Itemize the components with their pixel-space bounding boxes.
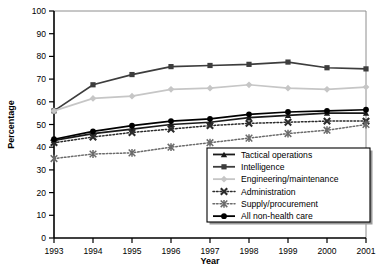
x-tick-label: 2000 (318, 246, 337, 256)
marker-square (129, 72, 134, 77)
marker-square (207, 63, 212, 68)
y-axis-title: Percentage (6, 100, 16, 149)
marker-diamond (90, 95, 97, 102)
legend-label: Tactical operations (241, 150, 312, 160)
x-axis-title: Year (200, 256, 220, 266)
series-3 (51, 81, 370, 114)
marker-circle (221, 213, 227, 219)
marker-square (90, 82, 95, 87)
marker-diamond (285, 85, 292, 92)
marker-diamond (363, 84, 370, 91)
marker-square (285, 59, 290, 64)
y-tick-label: 60 (37, 97, 47, 107)
marker-circle (207, 116, 213, 122)
y-tick-label: 40 (37, 142, 47, 152)
marker-square (324, 65, 329, 70)
x-tick-label: 1998 (240, 246, 259, 256)
marker-square (363, 66, 368, 71)
marker-circle (363, 107, 369, 113)
legend-label: All non-health care (241, 211, 313, 221)
marker-circle (246, 111, 252, 117)
x-tick-label: 2001 (357, 246, 376, 256)
y-tick-label: 50 (37, 120, 47, 130)
marker-diamond (129, 93, 136, 100)
x-axis-ticks: 199319941995199619971998199920002001 (45, 238, 376, 256)
chart-canvas: 0102030405060708090100 19931994199519961… (0, 0, 376, 270)
marker-circle (51, 136, 57, 142)
marker-square (246, 62, 251, 67)
x-tick-label: 1994 (84, 246, 103, 256)
y-tick-label: 10 (37, 210, 47, 220)
x-tick-label: 1999 (279, 246, 298, 256)
line-chart: 0102030405060708090100 19931994199519961… (0, 0, 376, 270)
marker-circle (285, 109, 291, 115)
x-tick-label: 1996 (162, 246, 181, 256)
y-axis-ticks: 0102030405060708090100 (32, 6, 54, 243)
x-tick-label: 1997 (201, 246, 220, 256)
y-tick-label: 80 (37, 51, 47, 61)
legend-label: Administration (241, 187, 296, 197)
y-tick-label: 20 (37, 188, 47, 198)
marker-circle (324, 108, 330, 114)
marker-diamond (324, 86, 331, 93)
y-tick-label: 70 (37, 74, 47, 84)
y-tick-label: 0 (41, 233, 46, 243)
marker-diamond (168, 86, 175, 93)
x-tick-label: 1993 (45, 246, 64, 256)
x-tick-label: 1995 (123, 246, 142, 256)
marker-square (221, 164, 226, 169)
marker-diamond (207, 85, 214, 92)
legend-label: Supply/procurement (241, 199, 319, 209)
legend-label: Intelligence (241, 162, 285, 172)
legend-label: Engineering/maintenance (241, 174, 339, 184)
y-tick-label: 90 (37, 29, 47, 39)
data-series-group (51, 59, 370, 162)
marker-square (168, 64, 173, 69)
chart-legend: Tactical operationsIntelligenceEngineeri… (207, 148, 373, 225)
marker-circle (90, 128, 96, 134)
marker-circle (129, 123, 135, 129)
y-tick-label: 30 (37, 165, 47, 175)
y-tick-label: 100 (32, 6, 46, 16)
marker-diamond (246, 81, 253, 88)
marker-circle (168, 118, 174, 124)
